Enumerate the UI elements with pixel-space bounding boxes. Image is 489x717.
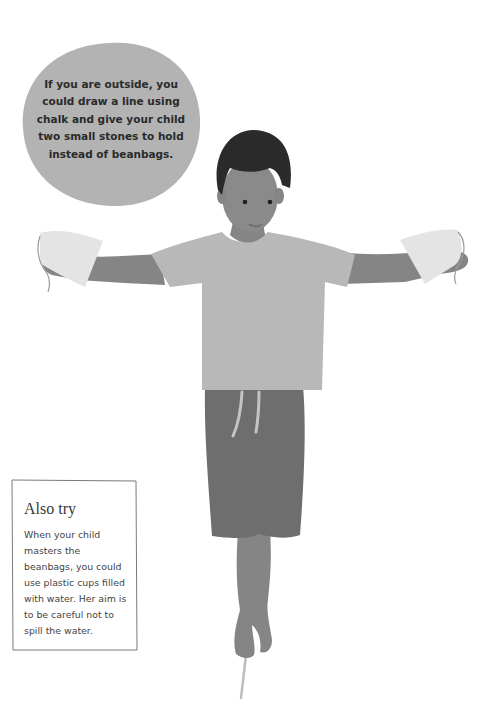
right-eye bbox=[268, 200, 273, 205]
also-try-title: Also try bbox=[24, 500, 76, 518]
left-eye bbox=[243, 200, 248, 205]
also-try-box: Also try When your child masters the bea… bbox=[12, 480, 136, 650]
child-legs bbox=[234, 530, 272, 658]
also-try-body: When your child masters the beanbags, yo… bbox=[24, 527, 144, 639]
tip-text: If you are outside, you could draw a lin… bbox=[36, 76, 186, 164]
right-ear bbox=[274, 188, 284, 204]
child-shirt bbox=[151, 232, 355, 390]
child-shorts bbox=[205, 386, 305, 538]
chalk-line bbox=[241, 655, 246, 698]
tip-bubble: If you are outside, you could draw a lin… bbox=[22, 42, 200, 207]
